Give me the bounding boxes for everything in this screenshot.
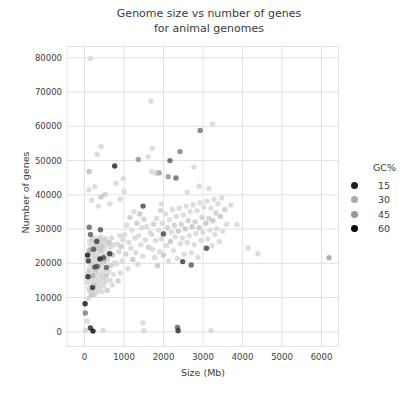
y-tick-label: 30000 bbox=[35, 224, 62, 234]
scatter-point bbox=[143, 237, 148, 242]
scatter-point bbox=[96, 203, 101, 208]
scatter-point bbox=[94, 239, 99, 244]
scatter-point bbox=[138, 242, 143, 247]
scatter-point bbox=[161, 231, 166, 236]
scatter-point bbox=[220, 228, 225, 233]
scatter-point bbox=[126, 240, 131, 245]
legend-entry: 45 bbox=[345, 207, 415, 222]
scatter-point bbox=[155, 263, 160, 268]
scatter-point bbox=[146, 154, 151, 159]
scatter-point bbox=[195, 255, 200, 260]
scatter-point bbox=[188, 209, 193, 214]
scatter-point bbox=[178, 241, 183, 246]
scatter-point bbox=[163, 211, 168, 216]
scatter-point bbox=[85, 319, 90, 324]
scatter-point bbox=[219, 195, 224, 200]
y-tick-label: 0 bbox=[57, 327, 62, 337]
scatter-point bbox=[211, 197, 216, 202]
legend-entry-label: 30 bbox=[378, 194, 390, 205]
scatter-point bbox=[119, 244, 124, 249]
x-tick-label: 4000 bbox=[232, 352, 254, 362]
scatter-point bbox=[159, 236, 164, 241]
scatter-point bbox=[171, 248, 176, 253]
scatter-point bbox=[121, 176, 126, 181]
scatter-point bbox=[166, 174, 171, 179]
scatter-point bbox=[82, 301, 87, 306]
legend-entry: 60 bbox=[345, 222, 415, 237]
scatter-point bbox=[208, 206, 213, 211]
x-tick-label: 2000 bbox=[153, 352, 175, 362]
y-tick-label: 20000 bbox=[35, 258, 62, 268]
scatter-point bbox=[120, 237, 125, 242]
scatter-point bbox=[114, 261, 119, 266]
scatter-point bbox=[128, 246, 133, 251]
scatter-point bbox=[208, 328, 213, 333]
scatter-point bbox=[209, 243, 214, 248]
scatter-point bbox=[87, 225, 92, 230]
scatter-point bbox=[105, 288, 110, 293]
scatter-point bbox=[88, 232, 93, 237]
scatter-point bbox=[159, 201, 164, 206]
scatter-point bbox=[182, 251, 187, 256]
scatter-point bbox=[117, 197, 122, 202]
scatter-point bbox=[89, 198, 94, 203]
scatter-point bbox=[141, 216, 146, 221]
scatter-point bbox=[157, 170, 162, 175]
scatter-point bbox=[198, 128, 203, 133]
scatter-point bbox=[144, 224, 149, 229]
scatter-point bbox=[166, 258, 171, 263]
scatter-point bbox=[214, 226, 219, 231]
scatter-point bbox=[218, 214, 223, 219]
scatter-point bbox=[86, 258, 91, 263]
scatter-point bbox=[100, 243, 105, 248]
scatter-point bbox=[194, 208, 199, 213]
scatter-point bbox=[88, 293, 93, 298]
scatter-point bbox=[170, 207, 175, 212]
scatter-point bbox=[104, 265, 109, 270]
scatter-point bbox=[205, 236, 210, 241]
scatter-point bbox=[187, 233, 192, 238]
scatter-point bbox=[90, 328, 95, 333]
legend-entry-label: 60 bbox=[378, 223, 390, 234]
scatter-point bbox=[156, 227, 161, 232]
scatter-point bbox=[199, 215, 204, 220]
scatter-point bbox=[98, 227, 103, 232]
x-tick-label: 6000 bbox=[311, 352, 333, 362]
scatter-point bbox=[167, 217, 172, 222]
scatter-point bbox=[215, 201, 220, 206]
legend-dot-icon bbox=[351, 211, 358, 218]
scatter-point bbox=[193, 231, 198, 236]
scatter-point bbox=[90, 273, 95, 278]
x-tick-label: 1000 bbox=[113, 352, 135, 362]
scatter-point bbox=[140, 320, 145, 325]
scatter-point bbox=[172, 223, 177, 228]
scatter-point bbox=[191, 242, 196, 247]
scatter-point bbox=[88, 56, 93, 61]
scatter-point bbox=[98, 144, 103, 149]
scatter-point bbox=[104, 273, 109, 278]
scatter-point bbox=[134, 221, 139, 226]
scatter-point bbox=[169, 229, 174, 234]
scatter-point bbox=[177, 149, 182, 154]
scatter-point bbox=[153, 238, 158, 243]
scatter-point bbox=[198, 238, 203, 243]
scatter-point bbox=[97, 256, 102, 261]
scatter-point bbox=[130, 257, 135, 262]
scatter-point bbox=[94, 152, 99, 157]
scatter-point bbox=[148, 99, 153, 104]
scatter-point bbox=[107, 251, 112, 256]
chart-canvas: Genome size vs number of genes for anima… bbox=[0, 0, 418, 398]
scatter-point bbox=[196, 184, 201, 189]
scatter-point bbox=[110, 282, 115, 287]
scatter-point bbox=[139, 225, 144, 230]
scatter-point bbox=[192, 219, 197, 224]
y-tick-label: 40000 bbox=[35, 190, 62, 200]
scatter-point bbox=[173, 234, 178, 239]
scatter-point bbox=[124, 223, 129, 228]
scatter-point bbox=[189, 250, 194, 255]
scatter-point bbox=[186, 218, 191, 223]
scatter-point bbox=[189, 224, 194, 229]
scatter-point bbox=[83, 310, 88, 315]
scatter-point bbox=[183, 226, 188, 231]
scatter-point bbox=[160, 221, 165, 226]
